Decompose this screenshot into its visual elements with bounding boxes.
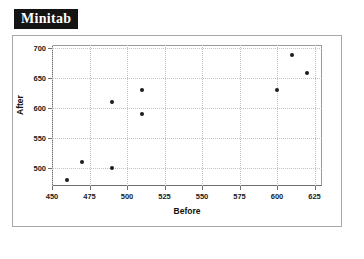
data-point (290, 53, 294, 57)
tick-mark-x (202, 186, 203, 190)
gridline-vertical (165, 45, 166, 186)
tick-mark-x (165, 186, 166, 190)
scatterplot-plot-area (52, 45, 322, 186)
minitab-title-badge: Minitab (14, 9, 78, 29)
x-tick-label: 625 (308, 192, 321, 201)
plot-frame (52, 45, 322, 186)
tick-mark-x (52, 186, 53, 190)
tick-mark-x (90, 186, 91, 190)
gridline-horizontal (52, 108, 322, 109)
y-tick-label: 500 (24, 164, 46, 173)
tick-mark-x (240, 186, 241, 190)
y-tick-label: 700 (24, 44, 46, 53)
data-point (140, 88, 144, 92)
gridline-horizontal (52, 168, 322, 169)
tick-mark-x (315, 186, 316, 190)
gridline-vertical (202, 45, 203, 186)
y-axis-title: After (15, 95, 25, 115)
x-tick-label: 450 (46, 192, 59, 201)
x-axis-title: Before (52, 206, 322, 216)
gridline-horizontal (52, 48, 322, 49)
y-tick-label: 650 (24, 74, 46, 83)
data-point (110, 100, 114, 104)
gridline-vertical (52, 45, 53, 186)
x-tick-label: 575 (233, 192, 246, 201)
data-point (305, 71, 309, 75)
tick-mark-y (48, 168, 52, 169)
gridline-vertical (240, 45, 241, 186)
x-tick-label: 550 (196, 192, 209, 201)
tick-mark-y (48, 48, 52, 49)
x-tick-label: 600 (271, 192, 284, 201)
gridline-horizontal (52, 78, 322, 79)
x-tick-label: 525 (158, 192, 171, 201)
gridline-vertical (90, 45, 91, 186)
tick-mark-y (48, 138, 52, 139)
gridline-horizontal (52, 138, 322, 139)
gridline-vertical (127, 45, 128, 186)
tick-mark-x (127, 186, 128, 190)
x-tick-label: 500 (121, 192, 134, 201)
data-point (80, 160, 84, 164)
gridline-vertical (315, 45, 316, 186)
x-tick-label: 475 (83, 192, 96, 201)
gridline-vertical (277, 45, 278, 186)
data-point (110, 166, 114, 170)
data-point (65, 178, 69, 182)
tick-mark-y (48, 108, 52, 109)
y-tick-label: 600 (24, 104, 46, 113)
data-point (275, 88, 279, 92)
tick-mark-y (48, 78, 52, 79)
y-tick-label: 550 (24, 134, 46, 143)
tick-mark-x (277, 186, 278, 190)
data-point (140, 112, 144, 116)
